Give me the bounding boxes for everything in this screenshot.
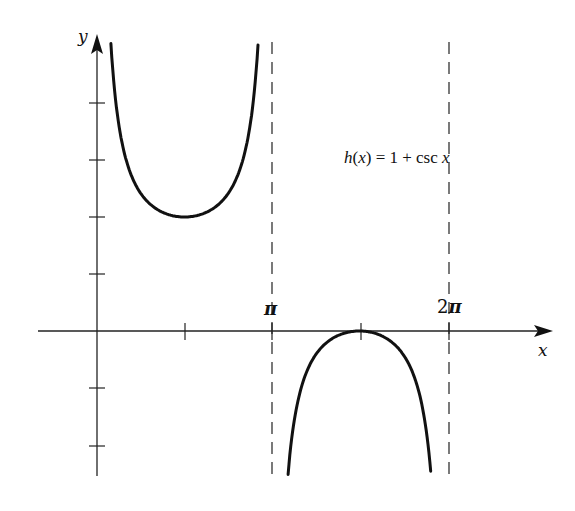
tick-label-pi: π [264, 298, 277, 319]
eq-const: 1 [389, 148, 398, 167]
eq-equals: = [371, 148, 389, 167]
tick-label-2pi-symbol: π [448, 296, 461, 317]
eq-csc: csc [416, 148, 442, 167]
x-axis-label: x [538, 340, 548, 360]
tick-label-2pi: 2π [437, 296, 462, 317]
graph-canvas [0, 0, 575, 511]
curve-upper-branch [111, 44, 258, 217]
eq-func-name: h [344, 148, 353, 167]
eq-arg-2: x [442, 148, 450, 167]
tick-label-2pi-coef: 2 [437, 296, 448, 317]
eq-arg: x [358, 148, 366, 167]
function-equation-label: h(x) = 1 + csc x [344, 148, 450, 168]
eq-plus: + [398, 148, 416, 167]
y-axis-label: y [78, 26, 88, 46]
curve-lower-branch [288, 331, 431, 474]
